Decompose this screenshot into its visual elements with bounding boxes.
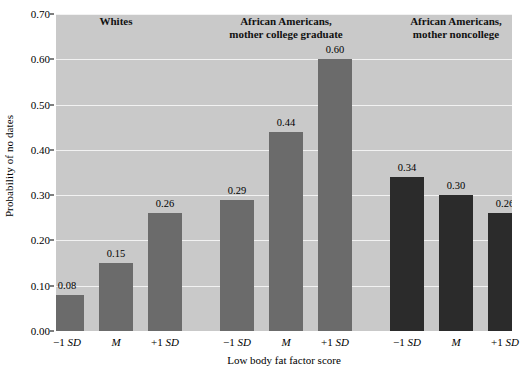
x-axis-tick-label-italic: SD [336,336,349,348]
x-axis-tick-label: −1 SD [223,336,251,348]
bar [318,59,352,331]
bar-value-label: 0.60 [326,44,344,55]
bar [488,213,512,331]
y-axis-tick-label: 0.50 [31,99,50,111]
y-axis-tick-label: 0.30 [31,189,50,201]
x-axis-tick-label-italic: M [111,336,120,348]
y-axis-tick-label: 0.20 [31,234,50,246]
x-axis-tick-label: M [281,336,290,348]
x-axis-tick-label-italic: SD [506,336,519,348]
x-axis-tick-label: −1 SD [53,336,81,348]
x-axis-tick-label: +1 SD [491,336,519,348]
bar [99,263,133,331]
y-axis-tick-label: 0.60 [31,53,50,65]
bar-value-label: 0.29 [228,185,246,196]
bar [269,132,303,331]
y-axis-tick-mark [50,285,54,286]
x-axis-tick-label-italic: SD [166,336,179,348]
x-axis-title: Low body fat factor score [56,354,512,366]
bar [220,200,254,331]
x-axis-tick-label-italic: M [281,336,290,348]
bar-value-label: 0.34 [398,162,416,173]
y-axis-tick-mark [50,59,54,60]
bar [439,195,473,331]
x-axis-tick-label-italic: SD [68,336,81,348]
plot-area: 0.080.150.260.290.440.600.340.300.26 [56,14,512,331]
y-axis-title-text: Probability of no dates [3,114,15,216]
y-axis-tick-label: 0.00 [31,325,50,337]
y-axis-tick-mark [50,240,54,241]
bar [390,177,424,331]
x-axis-tick-label-italic: M [451,336,460,348]
x-axis-tick-label: +1 SD [321,336,349,348]
gridline [56,105,512,106]
bar-chart-figure: Probability of no dates 0.000.100.200.30… [0,0,522,374]
x-axis-tick-label-italic: SD [238,336,251,348]
bar-value-label: 0.08 [58,280,76,291]
x-axis-tick-label: M [451,336,460,348]
gridline [56,59,512,60]
x-axis-tick-label: +1 SD [151,336,179,348]
bar-value-label: 0.26 [156,198,174,209]
group-header: African Americans,mother noncollege [350,15,522,40]
group-header-line: African Americans, [350,15,522,28]
y-axis-tick-labels: 0.000.100.200.300.400.500.600.70 [18,14,54,331]
y-axis-tick-mark [50,149,54,150]
y-axis-tick-mark [50,195,54,196]
y-axis-tick-mark [50,104,54,105]
bar-value-label: 0.26 [496,198,512,209]
y-axis-tick-label: 0.10 [31,280,50,292]
bar-value-label: 0.44 [277,117,295,128]
group-header-line: mother noncollege [350,28,522,41]
y-axis-tick-label: 0.40 [31,144,50,156]
bar [56,295,84,331]
x-axis-tick-label: −1 SD [393,336,421,348]
y-axis-title: Probability of no dates [0,0,18,331]
x-axis-tick-label-italic: SD [408,336,421,348]
y-axis-tick-mark [50,331,54,332]
bar-value-label: 0.30 [447,180,465,191]
bar-value-label: 0.15 [107,248,125,259]
bar [148,213,182,331]
x-axis-tick-label: M [111,336,120,348]
